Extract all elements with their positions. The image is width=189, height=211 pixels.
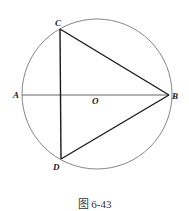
geometry-figure: A B C D O <box>0 0 189 211</box>
segment-cb <box>60 29 169 95</box>
label-b: B <box>171 91 178 101</box>
segment-db <box>61 95 169 159</box>
circle-o <box>22 19 172 169</box>
figure-caption: 图 6-43 <box>0 195 189 211</box>
label-o: O <box>92 96 99 106</box>
segment-cd <box>60 29 61 159</box>
label-a: A <box>12 90 19 100</box>
label-d: D <box>52 162 60 172</box>
label-c: C <box>55 18 62 28</box>
